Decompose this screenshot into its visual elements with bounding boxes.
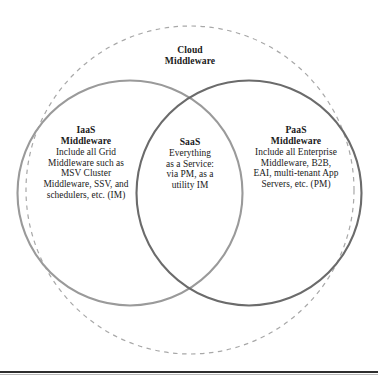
cloud-middleware-label-line-2: Middleware <box>124 56 256 67</box>
bottom-divider-rule <box>0 371 378 373</box>
cloud-middleware-label: Cloud Middleware <box>124 45 256 67</box>
iaas-body-line-3: MSV Cluster <box>16 168 156 179</box>
iaas-body-line-1: Include all Grid <box>16 147 156 158</box>
saas-body-line-3: via PM, as a <box>148 169 232 180</box>
iaas-title-line-2: Middleware <box>16 136 156 147</box>
paas-body-line-3: EAI, multi-tenant App <box>222 168 370 179</box>
paas-body-line-1: Include all Enterprise <box>222 147 370 158</box>
iaas-body-line-2: Middleware such as <box>16 158 156 169</box>
paas-title-line-2: Middleware <box>222 136 370 147</box>
iaas-middleware-label: IaaS Middleware Include all Grid Middlew… <box>16 125 156 200</box>
bottom-divider-rule-shadow <box>0 374 378 375</box>
venn-diagram-figure: Cloud Middleware IaaS Middleware Include… <box>0 0 378 383</box>
iaas-body-line-4: Middleware, SSV, and <box>16 179 156 190</box>
paas-body-line-4: Servers, etc. (PM) <box>222 179 370 190</box>
saas-title-line-1: SaaS <box>148 137 232 148</box>
iaas-body-line-5: schedulers, etc. (IM) <box>16 190 156 201</box>
paas-circle <box>137 81 362 306</box>
paas-body-line-2: Middleware, B2B, <box>222 158 370 169</box>
paas-middleware-label: PaaS Middleware Include all Enterprise M… <box>222 125 370 190</box>
saas-body-line-1: Everything <box>148 148 232 159</box>
saas-label: SaaS Everything as a Service: via PM, as… <box>148 137 232 191</box>
saas-body-line-2: as a Service: <box>148 159 232 170</box>
saas-body-line-4: utility IM <box>148 180 232 191</box>
